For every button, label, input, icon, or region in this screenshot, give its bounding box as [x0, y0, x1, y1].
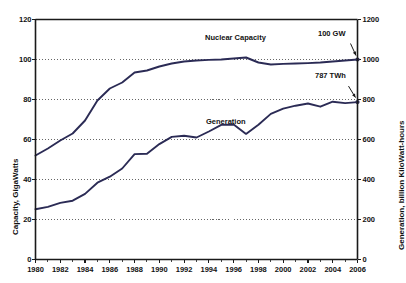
y-right-tick-label-400: 400	[363, 175, 397, 184]
y-left-tick-label-100: 100	[0, 55, 32, 64]
y-left-tick-label-60: 60	[0, 135, 32, 144]
y-right-tick-label-0: 0	[363, 255, 397, 264]
annotation-100-gw: 100 GW	[318, 29, 346, 38]
annotation-787-twh: 787 TWh	[315, 71, 346, 80]
y-right-tick-label-200: 200	[363, 215, 397, 224]
annotation-arrows	[349, 44, 357, 98]
y-left-tick-label-20: 20	[0, 215, 32, 224]
y-right-tick-label-1000: 1000	[363, 55, 397, 64]
y-left-tick-label-0: 0	[0, 255, 32, 264]
callout-arrow-787-twh	[349, 86, 356, 98]
y-right-tick-label-600: 600	[363, 135, 397, 144]
x-tick-label-2006: 2006	[338, 265, 378, 274]
series-label-nuclear-capacity: Nuclear Capacity	[205, 33, 266, 42]
data-series-lines	[36, 57, 360, 209]
y-left-tick-label-40: 40	[0, 175, 32, 184]
y-right-tick-label-800: 800	[363, 95, 397, 104]
y-left-tick-label-80: 80	[0, 95, 32, 104]
series-label-generation: Generation	[206, 117, 246, 126]
y-axis-left-title: Capacity, GigaWatts	[11, 159, 20, 235]
callout-arrow-100-gw	[351, 44, 357, 56]
y-right-tick-label-1200: 1200	[363, 15, 397, 24]
y-left-tick-label-120: 120	[0, 15, 32, 24]
y-axis-right-title: Generation, billion KiloWatt-hours	[397, 121, 406, 250]
